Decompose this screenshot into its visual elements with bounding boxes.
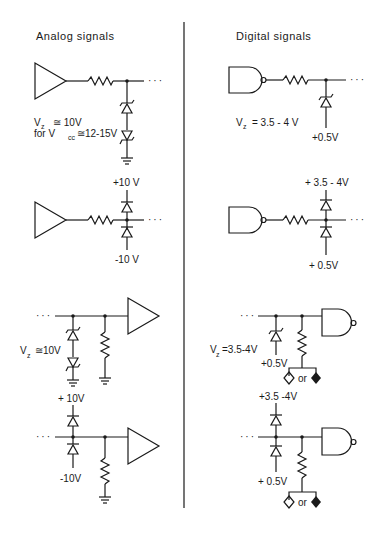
amplifier-triangle-icon bbox=[128, 428, 159, 464]
resistor-icon bbox=[101, 332, 109, 358]
diode-icon bbox=[270, 415, 282, 425]
svg-text:···: ··· bbox=[350, 214, 366, 225]
nand-gate-icon bbox=[322, 309, 352, 336]
resistor-icon bbox=[298, 452, 306, 478]
analog-circuit-4: + 10V ··· -10V bbox=[36, 393, 159, 503]
diode-icon bbox=[121, 227, 133, 237]
voltage-label: +10 V bbox=[113, 177, 140, 188]
digital-header: Digital signals bbox=[236, 30, 311, 42]
voltage-label: + 3.5 - 4V bbox=[305, 177, 349, 188]
nand-gate-icon bbox=[229, 207, 262, 233]
resistor-icon bbox=[101, 458, 109, 484]
svg-text:V: V bbox=[236, 117, 243, 128]
svg-text:or: or bbox=[298, 373, 308, 384]
analog-header: Analog signals bbox=[36, 30, 115, 42]
digital-circuit-1: ··· +0.5V V z = 3.5 - 4 V bbox=[229, 67, 366, 143]
voltage-label: + 10V bbox=[58, 393, 85, 404]
voltage-label: -10V bbox=[60, 473, 81, 484]
svg-text:≅12-15V: ≅12-15V bbox=[77, 128, 118, 139]
ground-icon bbox=[99, 497, 111, 503]
ground-icon bbox=[99, 378, 111, 384]
diagram-canvas: Analog signals Digital signals ··· V z ≅… bbox=[0, 0, 385, 534]
nand-gate-icon bbox=[229, 67, 262, 93]
analog-circuit-3: ··· V z ≅10V bbox=[20, 298, 159, 386]
resistor-icon bbox=[283, 216, 308, 224]
filled-diamond-icon bbox=[311, 496, 321, 508]
svg-text:z: z bbox=[243, 123, 247, 130]
svg-text:= 3.5 - 4 V: = 3.5 - 4 V bbox=[252, 117, 299, 128]
ground-icon bbox=[67, 380, 79, 386]
digital-circuit-2: + 3.5 - 4V ··· + 0.5V bbox=[229, 177, 366, 271]
voltage-label: +3.5 -4V bbox=[259, 391, 297, 402]
svg-text:=3.5-4V: =3.5-4V bbox=[222, 344, 258, 355]
svg-text:···: ··· bbox=[148, 75, 164, 86]
svg-text:V: V bbox=[20, 345, 27, 356]
svg-text:or: or bbox=[298, 497, 308, 508]
analog-circuit-1: ··· V z ≅ 10V for V cc ≅12-15V bbox=[34, 63, 164, 164]
svg-text:···: ··· bbox=[240, 431, 256, 442]
resistor-icon bbox=[298, 330, 306, 356]
svg-text:V: V bbox=[34, 117, 41, 128]
svg-text:···: ··· bbox=[148, 214, 164, 225]
voltage-label: + 0.5V bbox=[309, 260, 339, 271]
analog-circuit-2: +10 V ··· -10 V bbox=[35, 177, 164, 265]
svg-text:···: ··· bbox=[36, 310, 52, 321]
junction-dot bbox=[71, 435, 75, 439]
svg-text:for V: for V bbox=[34, 128, 55, 139]
svg-text:···: ··· bbox=[240, 310, 256, 321]
amplifier-triangle-icon bbox=[35, 63, 66, 99]
resistor-icon bbox=[88, 216, 113, 224]
voltage-label: +0.5V bbox=[312, 132, 339, 143]
svg-text:cc: cc bbox=[68, 134, 76, 141]
diode-icon bbox=[67, 416, 79, 426]
voltage-label: +0.5V bbox=[261, 358, 288, 369]
digital-circuit-3: ··· +0.5V V z =3.5-4V or bbox=[210, 309, 356, 384]
svg-text:···: ··· bbox=[36, 431, 52, 442]
diode-icon bbox=[270, 446, 282, 456]
amplifier-triangle-icon bbox=[35, 202, 66, 238]
junction-dot bbox=[125, 218, 129, 222]
svg-text:···: ··· bbox=[350, 74, 366, 85]
svg-text:≅10V: ≅10V bbox=[35, 345, 61, 356]
voltage-label: + 0.5V bbox=[258, 476, 288, 487]
digital-circuit-4: +3.5 -4V ··· + 0.5V or bbox=[240, 391, 356, 508]
diode-icon bbox=[67, 444, 79, 454]
diode-icon bbox=[320, 200, 332, 210]
amplifier-triangle-icon bbox=[128, 298, 159, 334]
svg-text:≅ 10V: ≅ 10V bbox=[53, 117, 82, 128]
voltage-label: -10 V bbox=[115, 254, 139, 265]
resistor-icon bbox=[283, 76, 308, 84]
svg-text:z: z bbox=[216, 351, 220, 358]
resistor-icon bbox=[88, 77, 113, 85]
junction-dot bbox=[324, 218, 328, 222]
diode-icon bbox=[320, 227, 332, 237]
diode-icon bbox=[121, 202, 133, 212]
filled-diamond-icon bbox=[311, 372, 321, 384]
svg-text:z: z bbox=[27, 352, 31, 359]
ground-icon bbox=[121, 158, 133, 164]
nand-gate-icon bbox=[322, 428, 352, 455]
